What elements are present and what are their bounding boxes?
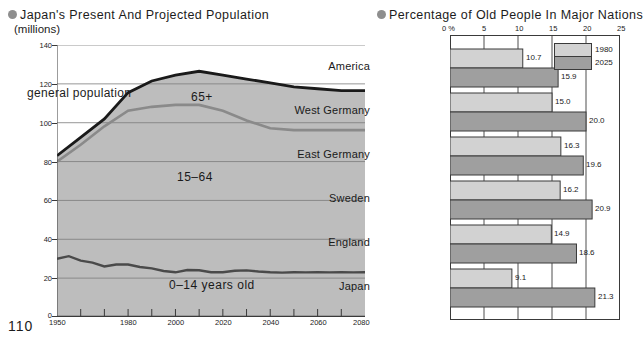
value-sweden-1980: 16.2 bbox=[563, 186, 579, 194]
bar-england-1980 bbox=[450, 225, 551, 244]
legend-swatch-2025 bbox=[554, 56, 592, 70]
page-number: 110 bbox=[8, 318, 33, 334]
value-west-germany-1980: 15.0 bbox=[555, 98, 571, 106]
y-tick-40: 40 bbox=[28, 236, 52, 244]
general-population-annotation: general population bbox=[27, 86, 131, 100]
x-axis-label-20: 20 bbox=[583, 25, 591, 33]
value-west-germany-2025: 20.0 bbox=[589, 117, 605, 125]
bar-japan-1980 bbox=[450, 269, 512, 288]
y-tick-20: 20 bbox=[28, 275, 52, 283]
value-japan-2025: 21.3 bbox=[598, 293, 614, 301]
country-label-west-germany: West Germany bbox=[294, 104, 370, 116]
band-label-0-14: 0–14 years old bbox=[169, 278, 255, 292]
left-chart-title-text: Japan's Present And Projected Population bbox=[20, 8, 269, 22]
legend-label-1980: 1980 bbox=[595, 46, 613, 54]
country-label-japan: Japan bbox=[339, 280, 370, 292]
x-axis-label-25: 25 bbox=[617, 25, 625, 33]
x-tick-2060: 2060 bbox=[310, 319, 327, 327]
x-tick-2020: 2020 bbox=[215, 319, 232, 327]
band-label-15-64: 15–64 bbox=[177, 170, 213, 184]
x-axis-label-10: 10 bbox=[515, 25, 523, 33]
country-label-east-germany: East Germany bbox=[297, 148, 370, 160]
country-label-sweden: Sweden bbox=[329, 192, 370, 204]
right-plot-area: 10.7 15.9 15.0 20.0 16.3 19.6 16.2 20.9 … bbox=[450, 35, 620, 320]
legend-swatch-1980 bbox=[554, 43, 592, 57]
bar-west-germany-2025 bbox=[450, 112, 586, 131]
y-tick-dash-140 bbox=[52, 45, 57, 46]
legend: 1980 2025 bbox=[554, 43, 616, 73]
x-tick-2000: 2000 bbox=[168, 319, 185, 327]
y-tick-dash-120 bbox=[52, 84, 57, 85]
y-tick-dash-80 bbox=[52, 162, 57, 163]
value-america-1980: 10.7 bbox=[526, 54, 542, 62]
x-tick-1950: 1950 bbox=[49, 319, 66, 327]
x-tick-1980: 1980 bbox=[120, 319, 137, 327]
y-tick-100: 100 bbox=[28, 120, 52, 128]
x-axis-label-0pct: 0 % bbox=[442, 25, 455, 33]
bar-east-germany-1980 bbox=[450, 137, 561, 156]
left-chart-unit-label: (millions) bbox=[14, 23, 60, 35]
value-america-2025: 15.9 bbox=[561, 73, 577, 81]
y-tick-dash-60 bbox=[52, 200, 57, 201]
y-tick-60: 60 bbox=[28, 197, 52, 205]
band-label-65plus: 65+ bbox=[191, 90, 213, 104]
horizontal-bar-svg bbox=[450, 35, 620, 320]
y-tick-dash-100 bbox=[52, 123, 57, 124]
old-people-percentage-chart: Percentage of Old People In Major Nation… bbox=[372, 0, 630, 343]
right-chart-title-text: Percentage of Old People In Major Nation… bbox=[389, 8, 643, 22]
value-east-germany-2025: 19.6 bbox=[586, 161, 602, 169]
x-axis-label-15: 15 bbox=[549, 25, 557, 33]
value-japan-1980: 9.1 bbox=[515, 274, 526, 282]
bar-sweden-2025 bbox=[450, 200, 592, 219]
y-tick-dash-0 bbox=[52, 316, 57, 317]
y-tick-dash-40 bbox=[52, 239, 57, 240]
value-england-1980: 14.9 bbox=[554, 230, 570, 238]
country-label-england: England bbox=[328, 236, 370, 248]
population-chart: Japan's Present And Projected Population… bbox=[0, 0, 372, 343]
bar-east-germany-2025 bbox=[450, 156, 583, 175]
x-axis-label-5: 5 bbox=[482, 25, 486, 33]
value-sweden-2025: 20.9 bbox=[595, 205, 611, 213]
y-tick-80: 80 bbox=[28, 159, 52, 167]
bar-america-1980 bbox=[450, 49, 523, 68]
bar-america-2025 bbox=[450, 68, 558, 87]
left-chart-title: Japan's Present And Projected Population bbox=[8, 8, 269, 22]
filled-circle-bullet-icon-right bbox=[377, 10, 386, 19]
bar-sweden-1980 bbox=[450, 181, 560, 200]
y-tick-dash-20 bbox=[52, 278, 57, 279]
legend-label-2025: 2025 bbox=[595, 59, 613, 67]
right-chart-title: Percentage of Old People In Major Nation… bbox=[377, 8, 643, 22]
y-tick-140: 140 bbox=[28, 42, 52, 50]
value-east-germany-1980: 16.3 bbox=[564, 142, 580, 150]
bar-japan-2025 bbox=[450, 288, 595, 307]
bar-west-germany-1980 bbox=[450, 93, 552, 112]
value-england-2025: 18.6 bbox=[579, 249, 595, 257]
x-tick-2040: 2040 bbox=[263, 319, 280, 327]
x-tick-2080: 2080 bbox=[353, 319, 370, 327]
filled-circle-bullet-icon bbox=[8, 10, 17, 19]
bar-england-2025 bbox=[450, 244, 576, 263]
country-label-america: America bbox=[328, 60, 370, 72]
